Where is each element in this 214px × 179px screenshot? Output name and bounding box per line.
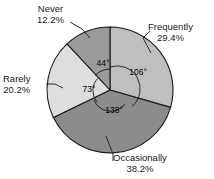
slice-label-rarely-name: Rarely xyxy=(3,73,30,84)
slice-label-occasionally: Occasionally 38.2% xyxy=(113,152,167,174)
slice-label-frequently-percent: 29.4% xyxy=(148,32,193,43)
angle-label-never: 44° xyxy=(97,58,110,68)
slice-label-never: Never 12.2% xyxy=(37,3,64,25)
slice-label-occasionally-name: Occasionally xyxy=(113,152,167,163)
angle-label-rarely: 73° xyxy=(83,84,96,94)
slice-label-never-name: Never xyxy=(38,3,63,14)
slice-label-frequently: Frequently 29.4% xyxy=(148,21,193,43)
angle-label-occasionally: 138° xyxy=(105,105,123,115)
slice-label-occasionally-percent: 38.2% xyxy=(113,163,167,174)
slice-label-rarely: Rarely 20.2% xyxy=(3,73,30,95)
angle-label-frequently: 106° xyxy=(129,67,147,77)
pie-chart-figure: 44° 106° 73° 138° Never 12.2% Frequently… xyxy=(0,0,214,179)
slice-label-rarely-percent: 20.2% xyxy=(3,84,30,95)
slice-label-frequently-name: Frequently xyxy=(148,21,193,32)
slice-label-never-percent: 12.2% xyxy=(37,14,64,25)
